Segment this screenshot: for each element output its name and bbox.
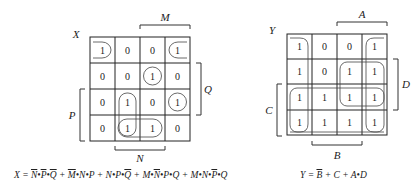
label-y-left: C (265, 104, 273, 116)
cell-x-0-1: 0 (125, 45, 130, 56)
cell-x-3-2: 1 (150, 123, 155, 134)
cell-x-1-0: 0 (100, 71, 105, 82)
term-4: M•N•P•Q (142, 170, 179, 180)
cell-y-0-1: 0 (322, 41, 327, 52)
term-2: M•N•P (68, 170, 95, 180)
cell-x-0-0: 1 (100, 45, 105, 56)
term-5: M•N•P•Q (190, 170, 227, 180)
cell-y-3-0: 1 (297, 117, 302, 128)
cell-y-0-3: 1 (372, 41, 377, 52)
cell-x-3-1: 1 (125, 123, 130, 134)
label-y-bottom: B (334, 149, 341, 161)
cell-x-3-0: 0 (100, 123, 105, 134)
equation-y-b-bar: B (316, 170, 322, 180)
cell-y-1-1: 0 (322, 66, 327, 77)
cell-y-1-3: 1 (372, 66, 377, 77)
bracket-x-bottom (115, 146, 165, 150)
cell-y-2-0: 1 (297, 92, 302, 103)
bracket-x-right (196, 63, 201, 115)
cell-y-1-2: 1 (347, 66, 352, 77)
cell-y-3-2: 1 (347, 117, 352, 128)
bracket-x-top (140, 25, 190, 29)
cell-y-2-1: 1 (322, 92, 327, 103)
label-y-top: A (358, 8, 366, 20)
term-3: N•P•Q (106, 170, 132, 180)
cell-x-2-2: 0 (150, 97, 155, 108)
cell-x-0-3: 1 (175, 45, 180, 56)
label-x-top: M (159, 11, 170, 23)
term-1: N•P•Q (31, 170, 57, 180)
cell-y-2-2: 1 (347, 92, 352, 103)
bracket-y-left (277, 84, 282, 136)
cell-y-3-1: 1 (322, 117, 327, 128)
cell-x-2-1: 1 (125, 97, 130, 108)
cell-x-2-3: 1 (175, 97, 180, 108)
equation-x: X = N•P•Q + M•N•P + N•P•Q + M•N•P•Q + M•… (14, 170, 227, 180)
bracket-y-bottom (312, 141, 362, 145)
bracket-y-top (337, 22, 387, 26)
cell-x-1-3: 0 (175, 71, 180, 82)
bracket-x-left (80, 89, 85, 141)
cell-x-1-1: 0 (125, 71, 130, 82)
cell-y-2-3: 1 (372, 92, 377, 103)
kmap-x: X 1 0 0 1 0 0 1 0 0 1 0 1 0 1 1 (68, 11, 212, 164)
label-x-left: P (68, 109, 76, 121)
cell-y-0-2: 0 (347, 41, 352, 52)
label-y-right: D (401, 78, 410, 90)
label-x-right: Q (204, 83, 212, 95)
map-title-y: Y (269, 24, 277, 36)
cell-x-3-3: 0 (175, 123, 180, 134)
cell-y-1-0: 1 (297, 66, 302, 77)
cell-x-0-2: 0 (150, 45, 155, 56)
equation-x-lhs: X = (14, 170, 29, 180)
equation-y-lhs: Y = (300, 170, 314, 180)
label-x-bottom: N (135, 152, 144, 164)
map-title-x: X (72, 28, 81, 40)
cell-x-2-0: 0 (100, 97, 105, 108)
kmap-y: Y 1 0 0 1 1 0 1 1 1 1 1 1 1 1 1 1 (265, 8, 410, 161)
equation-y-rest: + C + A•D (325, 170, 367, 180)
karnaugh-maps-diagram: X 1 0 0 1 0 0 1 0 0 1 0 1 0 1 1 (0, 0, 415, 188)
cell-y-0-0: 1 (297, 41, 302, 52)
equation-y: Y = B + C + A•D (300, 170, 367, 180)
bracket-y-right (393, 59, 398, 110)
cell-x-1-2: 1 (150, 71, 155, 82)
cell-y-3-3: 1 (372, 117, 377, 128)
